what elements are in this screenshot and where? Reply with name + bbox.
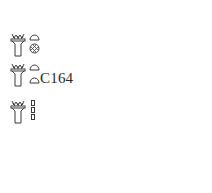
stroke-icon xyxy=(31,114,35,120)
stroke-icon xyxy=(31,100,35,106)
glyph-group-3 xyxy=(0,0,212,130)
vessel-with-plants-icon xyxy=(10,99,26,124)
stroke-icon xyxy=(31,107,35,113)
